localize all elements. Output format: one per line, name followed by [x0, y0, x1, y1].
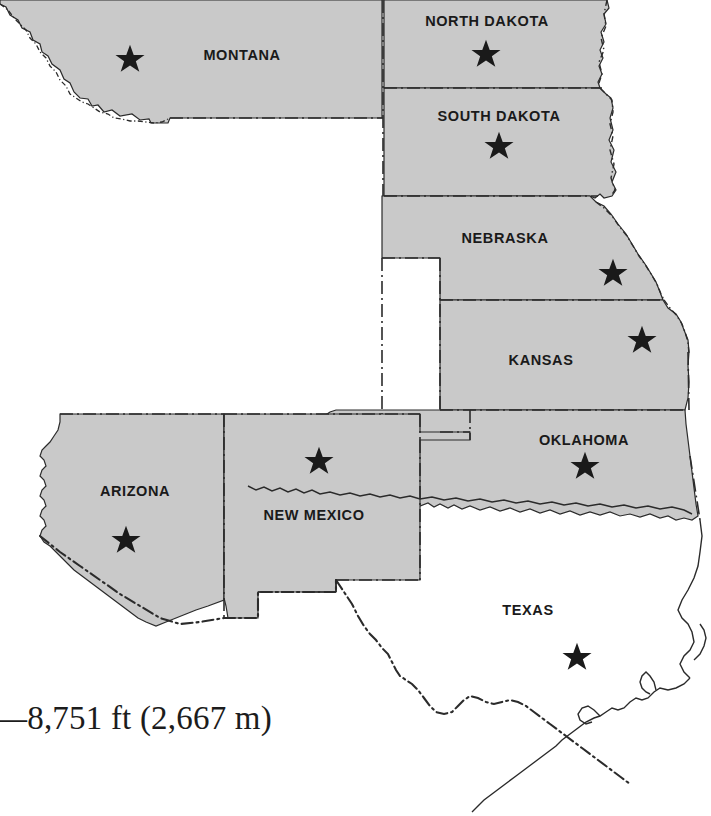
- state-shape-arizona: [40, 414, 224, 626]
- state-shape-montana: [0, 0, 382, 123]
- elevation-caption: —8,751 ft (2,667 m): [0, 700, 272, 737]
- border-kansas-east: [688, 352, 689, 410]
- coastline-galveston-bay: [640, 672, 656, 694]
- state-label-south-dakota: SOUTH DAKOTA: [438, 108, 561, 124]
- state-label-kansas: KANSAS: [509, 352, 574, 368]
- star-marker-texas: [562, 643, 591, 670]
- state-label-montana: MONTANA: [203, 47, 280, 63]
- state-label-oklahoma: OKLAHOMA: [539, 432, 629, 448]
- state-shapes-layer: [0, 0, 698, 626]
- state-label-nebraska: NEBRASKA: [462, 230, 549, 246]
- coastline-texas-gulf: [472, 678, 690, 812]
- border-texas-rio-grande: [336, 580, 630, 784]
- border-texas-east: [678, 520, 702, 678]
- coastline-corpus-christi-bay: [578, 706, 600, 724]
- map-container: MONTANA NORTH DAKOTA SOUTH DAKOTA NEBRAS…: [0, 0, 711, 816]
- state-label-new-mexico: NEW MEXICO: [263, 507, 364, 523]
- state-label-north-dakota: NORTH DAKOTA: [425, 13, 549, 29]
- states-map-svg: MONTANA NORTH DAKOTA SOUTH DAKOTA NEBRAS…: [0, 0, 711, 816]
- state-label-texas: TEXAS: [502, 602, 553, 618]
- state-label-arizona: ARIZONA: [100, 483, 170, 499]
- coastline-barrier-islands: [694, 624, 706, 660]
